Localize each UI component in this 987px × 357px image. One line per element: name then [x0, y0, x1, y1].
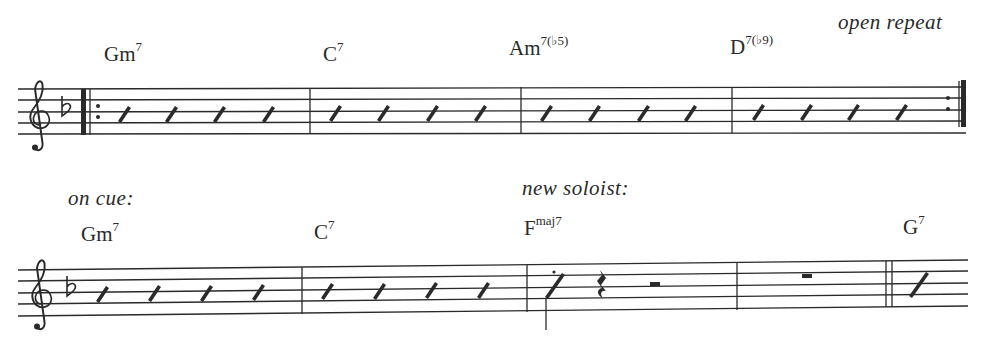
- staccato-dot: [552, 270, 555, 273]
- treble-clef-icon: [32, 260, 51, 329]
- staccato-slash-note: [545, 273, 565, 299]
- flat-key-signature-icon: [62, 96, 71, 116]
- music-staves: [0, 0, 987, 357]
- measure-2-slashes: [321, 282, 490, 300]
- treble-clef-icon: [30, 81, 49, 150]
- measure-3-slashes: [540, 105, 697, 122]
- measure-1-slashes: [118, 106, 275, 123]
- staff-lines: [18, 260, 968, 316]
- whole-rest-icon: [802, 274, 812, 278]
- staff-lines: [18, 87, 966, 134]
- measure-3-figures: [545, 270, 660, 330]
- staff-system-1: [18, 80, 966, 151]
- measure-1-slashes: [96, 284, 265, 303]
- measure-4-slashes: [752, 104, 908, 121]
- half-rest-icon: [650, 282, 660, 286]
- staff-system-2: [18, 260, 968, 330]
- measure-2-slashes: [329, 105, 487, 122]
